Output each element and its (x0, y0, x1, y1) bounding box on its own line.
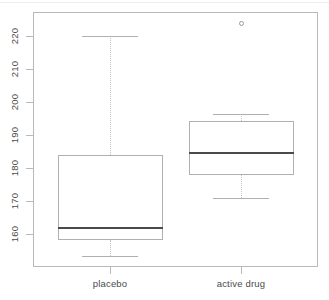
y-tick-mark-190 (26, 135, 33, 136)
x-tick-label-active-drug: active drug (217, 278, 266, 289)
whisker-cap-lower-placebo (82, 256, 138, 257)
y-tick-mark-200 (26, 102, 33, 103)
y-tick-label-180: 180 (9, 160, 20, 176)
y-tick-label-170-wrap: 170 (4, 195, 24, 207)
top-edge-artifact (0, 2, 329, 3)
y-tick-mark-170 (26, 201, 33, 202)
y-tick-label-170: 170 (9, 193, 20, 209)
y-tick-mark-180 (26, 168, 33, 169)
outlier-point-active-drug (239, 21, 244, 26)
y-tick-label-200-wrap: 200 (4, 96, 24, 108)
median-line-placebo (58, 227, 163, 229)
boxplot-chart: 220 210 200 190 180 170 160 (0, 0, 329, 300)
whisker-cap-upper-placebo (82, 36, 138, 37)
x-tick-mark-placebo (110, 267, 111, 274)
median-line-active-drug (189, 152, 294, 154)
y-tick-label-210-wrap: 210 (4, 63, 24, 75)
y-tick-mark-210 (26, 69, 33, 70)
x-tick-mark-active-drug (241, 267, 242, 274)
y-tick-label-190: 190 (9, 127, 20, 143)
whisker-lower-placebo (110, 240, 112, 256)
box-active-drug (189, 121, 294, 175)
whisker-upper-active-drug (241, 114, 243, 121)
whisker-lower-active-drug (241, 175, 243, 198)
whisker-cap-upper-active-drug (213, 114, 269, 115)
y-tick-label-180-wrap: 180 (4, 162, 24, 174)
x-tick-label-placebo: placebo (93, 278, 128, 289)
y-tick-mark-160 (26, 234, 33, 235)
whisker-upper-placebo (110, 36, 112, 155)
y-tick-label-200: 200 (9, 94, 20, 110)
y-tick-label-160-wrap: 160 (4, 228, 24, 240)
y-tick-label-220-wrap: 220 (4, 30, 24, 42)
y-tick-mark-220 (26, 36, 33, 37)
y-tick-label-220: 220 (9, 28, 20, 44)
y-tick-label-210: 210 (9, 61, 20, 77)
y-tick-label-160: 160 (9, 226, 20, 242)
y-tick-label-190-wrap: 190 (4, 129, 24, 141)
whisker-cap-lower-active-drug (213, 198, 269, 199)
